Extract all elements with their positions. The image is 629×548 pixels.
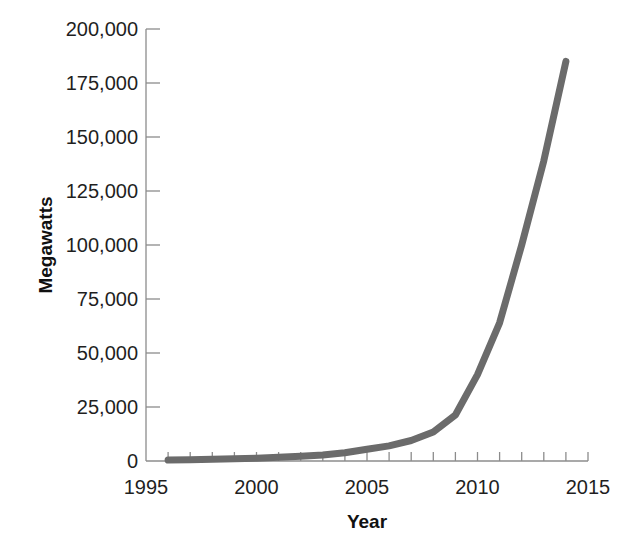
y-tick-label-100000: 100,000 [66, 234, 138, 256]
x-tick-label-2015: 2015 [566, 476, 611, 498]
y-axis-ticks [146, 29, 160, 407]
y-tick-label-25000: 25,000 [77, 396, 138, 418]
chart-figure: 200,000 175,000 150,000 125,000 100,000 … [0, 0, 629, 548]
y-tick-label-0: 0 [127, 450, 138, 472]
y-tick-label-125000: 125,000 [66, 180, 138, 202]
x-tick-label-2005: 2005 [345, 476, 390, 498]
y-axis-title: Megawatts [35, 196, 56, 293]
x-axis-tick-labels: 1995 2000 2005 2010 2015 [124, 476, 611, 498]
data-series-line [168, 61, 566, 460]
x-tick-label-1995: 1995 [124, 476, 169, 498]
y-tick-label-150000: 150,000 [66, 126, 138, 148]
y-tick-label-50000: 50,000 [77, 342, 138, 364]
y-tick-label-175000: 175,000 [66, 72, 138, 94]
x-tick-label-2000: 2000 [234, 476, 279, 498]
y-tick-label-75000: 75,000 [77, 288, 138, 310]
line-chart: 200,000 175,000 150,000 125,000 100,000 … [0, 0, 629, 548]
x-tick-label-2010: 2010 [455, 476, 500, 498]
y-axis-tick-labels: 200,000 175,000 150,000 125,000 100,000 … [66, 18, 138, 472]
x-axis-title: Year [347, 511, 388, 532]
y-tick-label-200000: 200,000 [66, 18, 138, 40]
